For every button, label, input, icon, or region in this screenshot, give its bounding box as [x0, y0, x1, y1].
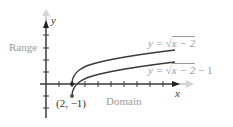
- x-axis-label: x: [175, 88, 180, 99]
- curve-label-lower: y = √x − 2 − 1: [148, 65, 212, 76]
- x-axis-faint-arrowhead: [186, 80, 194, 88]
- curve-label-upper: y = √x − 2: [148, 38, 195, 49]
- point-2-0: [70, 82, 74, 86]
- sqrt-symbol-icon: √: [166, 64, 172, 76]
- y-axis-arrowhead: [43, 20, 49, 28]
- range-label: Range: [9, 42, 37, 53]
- y-axis-faint-arrowhead: [42, 9, 50, 16]
- sqrt-symbol-icon: √: [166, 37, 172, 49]
- graph-diagram: y x Range Domain (2, −1) y = √x − 2 y = …: [0, 0, 233, 127]
- point-label: (2, −1): [56, 98, 86, 109]
- y-axis-label: y: [51, 15, 56, 26]
- domain-label: Domain: [106, 96, 141, 107]
